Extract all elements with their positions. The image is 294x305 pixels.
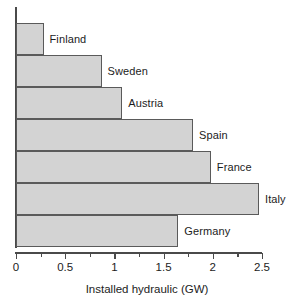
bar-italy bbox=[16, 183, 259, 215]
bars-group: Finland Sweden Austria Spain France Ital… bbox=[16, 23, 262, 247]
bar-label-germany: Germany bbox=[184, 225, 230, 237]
table-row: Spain bbox=[16, 119, 262, 151]
x-tick-minor bbox=[188, 253, 189, 257]
table-row: Sweden bbox=[16, 55, 262, 87]
bar-label-italy: Italy bbox=[265, 193, 286, 205]
x-tick-minor bbox=[237, 253, 238, 257]
x-tick-minor bbox=[139, 253, 140, 257]
table-row: Germany bbox=[16, 215, 262, 247]
x-axis-title: Installed hydraulic (GW) bbox=[0, 283, 294, 295]
table-row: France bbox=[16, 151, 262, 183]
bar-label-france: France bbox=[217, 161, 252, 173]
bar-france bbox=[16, 151, 211, 183]
table-row: Italy bbox=[16, 183, 262, 215]
bar-label-finland: Finland bbox=[50, 33, 87, 45]
x-tick-major bbox=[213, 253, 214, 259]
bar-sweden bbox=[16, 55, 102, 87]
x-tick-major bbox=[164, 253, 165, 259]
x-tick-major bbox=[65, 253, 66, 259]
x-tick-major bbox=[114, 253, 115, 259]
bar-label-sweden: Sweden bbox=[108, 65, 148, 77]
x-tick-label: 1 bbox=[111, 261, 117, 273]
x-tick-minor bbox=[41, 253, 42, 257]
x-tick-label: 2 bbox=[210, 261, 216, 273]
bar-austria bbox=[16, 87, 122, 119]
x-tick-minor bbox=[90, 253, 91, 257]
x-tick-label: 2.5 bbox=[254, 261, 270, 273]
bar-germany bbox=[16, 215, 178, 247]
x-tick-major bbox=[262, 253, 263, 259]
table-row: Austria bbox=[16, 87, 262, 119]
bar-chart: Finland Sweden Austria Spain France Ital… bbox=[0, 0, 294, 305]
bar-label-spain: Spain bbox=[199, 129, 228, 141]
bar-label-austria: Austria bbox=[128, 97, 163, 109]
x-tick-major bbox=[16, 253, 17, 259]
x-tick-label: 0 bbox=[13, 261, 19, 273]
bar-finland bbox=[16, 23, 44, 55]
table-row: Finland bbox=[16, 23, 262, 55]
x-tick-label: 0.5 bbox=[57, 261, 73, 273]
bar-spain bbox=[16, 119, 193, 151]
x-tick-label: 1.5 bbox=[156, 261, 172, 273]
